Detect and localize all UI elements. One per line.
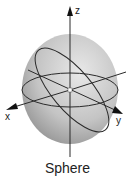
x-axis-arrow-icon [6,103,18,110]
origin-point [68,88,72,92]
z-axis-arrow-icon [67,6,73,16]
x-axis-label: x [5,111,10,122]
y-axis-label: y [116,115,121,126]
sphere-diagram: z x y [0,0,135,182]
diagram-caption: Sphere [0,160,135,176]
z-axis-label: z [75,5,80,16]
